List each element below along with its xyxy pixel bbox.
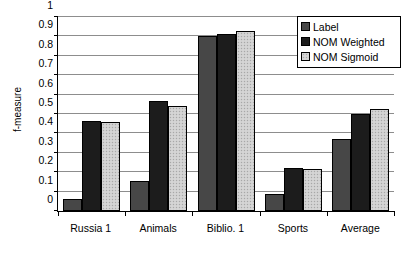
x-axis-category-label: Sports [259, 222, 326, 234]
x-tick-mark [327, 211, 328, 216]
legend-label: NOM Weighted [313, 36, 385, 48]
y-tick-label: 1 [47, 0, 53, 11]
y-tick-label: 0.1 [38, 174, 53, 186]
bar [63, 199, 82, 211]
bar [130, 181, 149, 211]
bar [236, 31, 255, 211]
y-tick-label: 0.4 [38, 115, 53, 127]
x-tick-mark [192, 211, 193, 216]
y-tick-label: 0.2 [38, 154, 53, 166]
x-axis-category-label: Biblio. 1 [192, 222, 259, 234]
bar-group [58, 17, 125, 211]
bar-chart-figure: f-measure 00.10.20.30.40.50.60.70.80.91 … [0, 0, 414, 255]
legend-item: NOM Weighted [301, 34, 397, 49]
y-tick-label: 0 [47, 193, 53, 205]
bar [82, 121, 101, 211]
y-axis-title: f-measure [12, 70, 23, 150]
legend-label: Label [313, 21, 339, 33]
y-tick-label: 0.5 [38, 96, 53, 108]
bar [303, 169, 322, 211]
y-tick-label: 0.8 [38, 38, 53, 50]
bar [332, 139, 351, 211]
legend-label: NOM Sigmoid [313, 51, 378, 63]
y-tick-label: 0.3 [38, 135, 53, 147]
bar-group [192, 17, 259, 211]
x-tick-mark [125, 211, 126, 216]
x-tick-mark [58, 211, 59, 216]
y-tick-label: 0.7 [38, 57, 53, 69]
x-axis-category-label: Russia 1 [57, 222, 124, 234]
bar [284, 168, 303, 211]
x-axis-category-label: Average [327, 222, 394, 234]
legend-item: Label [301, 19, 397, 34]
bar [217, 34, 236, 212]
bar [265, 194, 284, 211]
bar-group [125, 17, 192, 211]
legend-swatch-icon [301, 22, 310, 31]
y-tick-label: 0.9 [38, 18, 53, 30]
bar [351, 114, 370, 211]
bar [101, 122, 120, 211]
x-axis-labels: Russia 1AnimalsBiblio. 1SportsAverage [57, 222, 394, 234]
y-tick-label: 0.6 [38, 77, 53, 89]
legend-item: NOM Sigmoid [301, 49, 397, 64]
x-tick-mark [394, 211, 395, 216]
chart-legend: LabelNOM WeightedNOM Sigmoid [297, 16, 401, 68]
x-tick-mark [260, 211, 261, 216]
bar [149, 101, 168, 211]
bar [370, 109, 389, 211]
bar [198, 36, 217, 211]
bar [168, 106, 187, 211]
legend-swatch-icon [301, 52, 310, 61]
x-axis-category-label: Animals [124, 222, 191, 234]
legend-swatch-icon [301, 37, 310, 46]
